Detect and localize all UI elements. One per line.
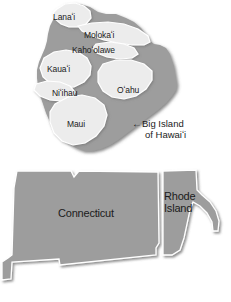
mainland-states-panel: Connecticut Rhode Island xyxy=(0,158,231,302)
island-label-niihau: Niʻihau xyxy=(52,88,77,98)
state-label-connecticut: Connecticut xyxy=(58,208,114,218)
size-comparison-figure: Lanaʻi Molokaʻi Kahoʻolawe Kauaʻi Niʻiha… xyxy=(0,0,231,302)
island-label-maui: Maui xyxy=(67,119,85,129)
state-shape-connecticut xyxy=(2,171,159,280)
left-arrow-icon: ← xyxy=(132,118,142,129)
island-label-molokai: Molokaʻi xyxy=(84,30,114,40)
big-island-callout-line2: of Hawaiʻi xyxy=(132,129,186,140)
big-island-callout-line1: Big Island xyxy=(142,118,184,129)
state-label-rhode-island-line1: Rhode xyxy=(164,190,195,202)
island-label-lanai: Lanaʻi xyxy=(53,12,75,22)
state-label-rhode-island: Rhode Island xyxy=(164,190,195,214)
hawaii-map-svg xyxy=(0,0,231,160)
island-label-oahu: Oʻahu xyxy=(117,85,139,95)
island-label-kahoolawe: Kahoʻolawe xyxy=(72,45,115,55)
hawaii-islands-panel: Lanaʻi Molokaʻi Kahoʻolawe Kauaʻi Niʻiha… xyxy=(0,0,231,160)
big-island-callout: ←Big Island of Hawaiʻi xyxy=(132,118,186,140)
state-label-rhode-island-line2: Island xyxy=(164,202,195,214)
island-label-kauai: Kauaʻi xyxy=(47,64,70,74)
mainland-map-svg xyxy=(0,158,231,302)
